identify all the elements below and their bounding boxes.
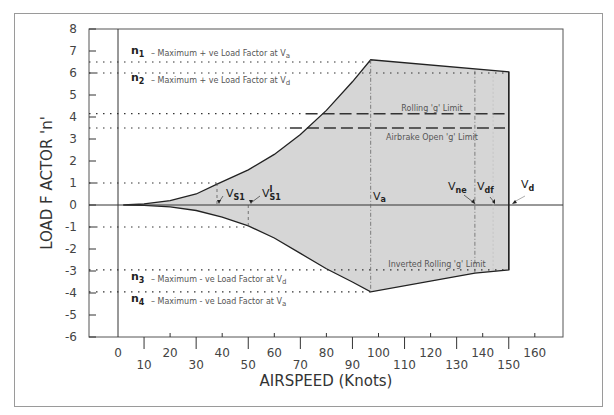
airbrake-g-limit-label: Airbrake Open 'g' Limit [386, 133, 478, 142]
y-tick-label: 7 [69, 44, 77, 58]
y-axis-ticks: 876543210-1-2-3-4-5-6 [65, 22, 96, 344]
x-tick-label: 40 [215, 346, 230, 360]
x-tick-label: 70 [293, 358, 308, 372]
x-tick-label: 160 [523, 346, 546, 360]
flight-envelope-area [123, 60, 509, 292]
y-tick-label: 8 [69, 22, 77, 36]
y-tick-label: 3 [69, 132, 77, 146]
x-tick-label: 10 [136, 358, 151, 372]
rolling-g-limit-label: Rolling 'g' Limit [401, 104, 462, 113]
svg-text:n3: n3 [131, 270, 144, 285]
svg-text:– Maximum - ve Load Factor at: – Maximum - ve Load Factor at Vd [151, 275, 286, 286]
y-tick-label: -4 [65, 286, 77, 300]
x-tick-label: 90 [345, 358, 360, 372]
y-tick-label: 6 [69, 66, 77, 80]
x-tick-label: 140 [471, 346, 494, 360]
inverted-rolling-g-limit-label: Inverted Rolling 'g' Limit [388, 260, 485, 269]
x-tick-label: 60 [267, 346, 282, 360]
y-tick-label: 1 [69, 176, 77, 190]
x-tick-label: 110 [393, 358, 416, 372]
y-tick-label: 4 [69, 110, 77, 124]
y-tick-label: 5 [69, 88, 77, 102]
x-tick-label: 0 [114, 346, 122, 360]
svg-text:– Maximum + ve Load Factor at: – Maximum + ve Load Factor at Va [151, 49, 290, 60]
n1-annotation: n1 – Maximum + ve Load Factor at Va [131, 44, 290, 60]
x-tick-label: 50 [241, 358, 256, 372]
svg-text:– Maximum - ve Load Factor at: – Maximum - ve Load Factor at Va [151, 297, 286, 308]
flight-envelope-chart: 876543210-1-2-3-4-5-6 020406080100120140… [0, 0, 614, 415]
n2-annotation: n2 – Maximum + ve Load Factor at Vd [131, 71, 290, 87]
x-tick-label: 120 [419, 346, 442, 360]
y-tick-label: -2 [65, 242, 77, 256]
y-tick-label: 0 [69, 198, 77, 212]
x-tick-label: 20 [162, 346, 177, 360]
n4-annotation: n4 – Maximum - ve Load Factor at Va [131, 292, 286, 308]
svg-text:– Maximum + ve Load Factor at: – Maximum + ve Load Factor at Vd [151, 76, 290, 87]
x-tick-label: 130 [445, 358, 468, 372]
svg-text:Vd: Vd [521, 178, 535, 193]
y-tick-label: -1 [65, 220, 77, 234]
y-tick-label: -3 [65, 264, 77, 278]
n3-annotation: n3 – Maximum - ve Load Factor at Vd [131, 270, 286, 286]
y-axis-title: LOAD F ACTOR 'n' [38, 116, 56, 250]
x-axis-ticks: 0204060801001201401601030507090110130150 [114, 333, 546, 372]
x-tick-label: 80 [319, 346, 334, 360]
x-tick-label: 150 [497, 358, 520, 372]
y-tick-label: -5 [65, 308, 77, 322]
y-tick-label: 2 [69, 154, 77, 168]
svg-text:n1: n1 [131, 44, 145, 59]
x-tick-label: 30 [189, 358, 204, 372]
x-tick-label: 100 [367, 346, 390, 360]
x-axis-title: AIRSPEED (Knots) [260, 372, 393, 390]
svg-text:n4: n4 [131, 292, 145, 307]
vd-label: Vd [512, 178, 535, 204]
y-tick-label: -6 [65, 330, 77, 344]
svg-text:n2: n2 [131, 71, 144, 86]
